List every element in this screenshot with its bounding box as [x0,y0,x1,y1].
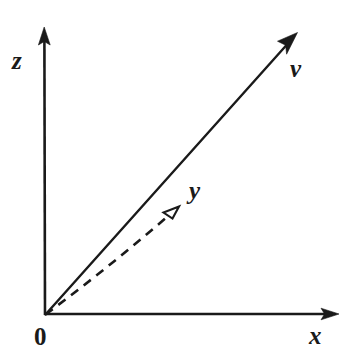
vector-y-line [46,217,168,315]
x-axis-label: x [309,323,322,348]
vector-y-label: y [189,178,200,203]
vector-diagram-figure: z v y x 0 [0,0,363,362]
vector-v [46,33,298,315]
x-axis [45,308,339,320]
vector-v-line [46,45,288,315]
vector-y [46,207,180,315]
vector-v-label: v [290,56,301,81]
diagram-canvas [0,0,363,362]
z-axis [38,27,50,315]
z-axis-line [44,40,45,315]
z-axis-label: z [12,48,22,73]
origin-label: 0 [34,324,47,349]
vector-y-arrowhead-icon [164,207,180,219]
